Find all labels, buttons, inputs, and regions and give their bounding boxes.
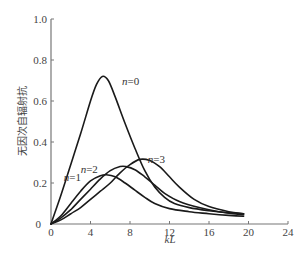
series-label-n-2: n=2: [81, 163, 98, 175]
x-tick-label: 24: [283, 226, 295, 238]
x-tick-label: 4: [88, 226, 94, 238]
curve-n-0: [51, 76, 244, 224]
curves: [51, 76, 244, 224]
series-label-n-0: n=0: [122, 75, 140, 87]
series-label-n-1: n=1: [64, 171, 81, 183]
x-tick-label: 8: [127, 226, 133, 238]
x-tick-label: 20: [243, 226, 255, 238]
y-tick-label: 0.2: [33, 177, 47, 189]
y-tick-label: 0.4: [33, 136, 47, 148]
series-label-n-3: n=3: [148, 153, 166, 165]
x-tick-label: 16: [204, 226, 216, 238]
y-tick-label: 0.6: [33, 95, 47, 107]
axes: 00.20.40.60.81.0 04812162024 kL 无因次自辐射抗: [16, 13, 294, 245]
chart-canvas: 00.20.40.60.81.0 04812162024 kL 无因次自辐射抗 …: [0, 0, 307, 262]
series-labels: n=0n=1n=2n=3: [64, 75, 166, 183]
y-axis-title: 无因次自辐射抗: [16, 86, 28, 156]
y-tick-label: 1.0: [33, 13, 47, 25]
y-tick-label: 0.8: [33, 54, 47, 66]
y-tick-label: 0: [36, 218, 42, 230]
x-axis-title: kL: [165, 233, 176, 245]
x-tick-label: 0: [48, 226, 54, 238]
